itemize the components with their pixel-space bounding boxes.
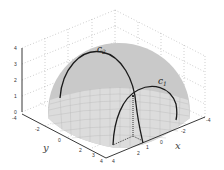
svg-text:3: 3 [92,152,95,158]
hemisphere-plot: 4 3 2 1 0 -4 -2 0 2 3 4 4 2 1 0 -2 -4 y … [0,0,224,170]
svg-text:-2: -2 [181,128,186,134]
x-axis-label: x [175,140,181,151]
svg-text:1: 1 [146,144,149,150]
z-ticks: 4 3 2 1 0 [14,45,17,115]
svg-text:2: 2 [137,150,140,156]
svg-text:1: 1 [14,93,17,99]
svg-text:2: 2 [79,147,82,153]
svg-text:4: 4 [112,158,115,164]
svg-text:0: 0 [58,137,61,143]
svg-text:-4: -4 [12,115,17,121]
svg-text:2: 2 [14,77,17,83]
y-axis-label: y [42,142,49,153]
svg-text:-4: -4 [206,117,211,123]
svg-text:4: 4 [14,45,17,51]
intersection-point [132,95,134,97]
svg-text:3: 3 [14,61,17,67]
svg-text:0: 0 [160,139,163,145]
svg-text:-2: -2 [35,126,40,132]
svg-text:4: 4 [100,158,103,164]
